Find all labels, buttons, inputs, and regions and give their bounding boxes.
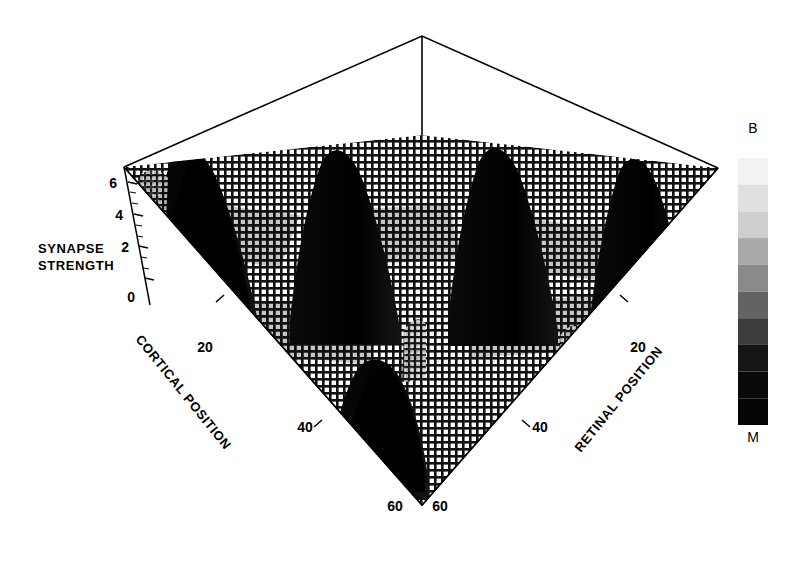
x-tick-label-20: 20: [197, 339, 213, 355]
colorbar: B M: [738, 120, 768, 445]
colorbar-band-2: [738, 211, 768, 238]
colorbar-band-1: [738, 185, 768, 212]
surface-plot-svg: 6 4 2 0 SYNAPSE STRENGTH 20 40 60 CORTIC…: [0, 0, 797, 563]
z-tick-label-4: 4: [115, 207, 123, 223]
colorbar-band-9: [738, 398, 768, 425]
colorbar-band-3: [738, 238, 768, 265]
colorbar-band-7: [738, 345, 768, 372]
mesh-surface: [124, 135, 718, 505]
z-tick-label-0: 0: [127, 289, 135, 305]
y-tick-label-60: 60: [432, 498, 448, 514]
colorbar-bottom-label: M: [747, 429, 759, 445]
z-axis-title-line2: STRENGTH: [38, 258, 114, 273]
z-tick-label-6: 6: [109, 175, 117, 191]
colorbar-bands: [738, 158, 768, 425]
y-axis-title: RETINAL POSITION: [571, 343, 665, 455]
figure-3d-surface-plot: 6 4 2 0 SYNAPSE STRENGTH 20 40 60 CORTIC…: [0, 0, 797, 563]
colorbar-top-label: B: [748, 120, 757, 136]
x-tick-label-40: 40: [297, 419, 313, 435]
y-tick-label-20: 20: [630, 339, 646, 355]
x-axis-title: CORTICAL POSITION: [133, 332, 235, 452]
colorbar-band-4: [738, 265, 768, 292]
colorbar-band-0: [738, 158, 768, 185]
z-axis-title-line1: SYNAPSE: [38, 241, 104, 256]
z-axis: 6 4 2 0 SYNAPSE STRENGTH: [38, 167, 154, 305]
z-tick-label-2: 2: [121, 239, 129, 255]
colorbar-band-5: [738, 292, 768, 319]
colorbar-band-6: [738, 318, 768, 345]
x-tick-label-60: 60: [387, 498, 403, 514]
colorbar-band-8: [738, 372, 768, 399]
surface-bump-right: [630, 260, 716, 318]
y-tick-label-40: 40: [532, 419, 548, 435]
